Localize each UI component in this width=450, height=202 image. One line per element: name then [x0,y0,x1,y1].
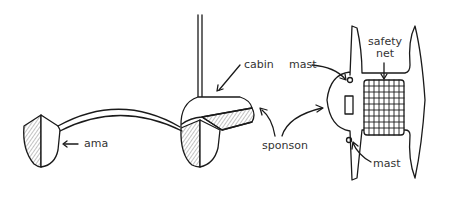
label-mast-bottom: mast [373,158,401,170]
safety-net [364,80,404,135]
boat-diagram [0,0,450,202]
ama-float-left [24,115,60,167]
label-sponson: sponson [262,140,308,152]
label-cabin: cabin [244,59,274,71]
main-hull-front [181,120,220,167]
label-safety-net-2: net [366,48,404,60]
label-mast-top: mast [289,59,317,71]
label-ama: ama [84,138,108,150]
